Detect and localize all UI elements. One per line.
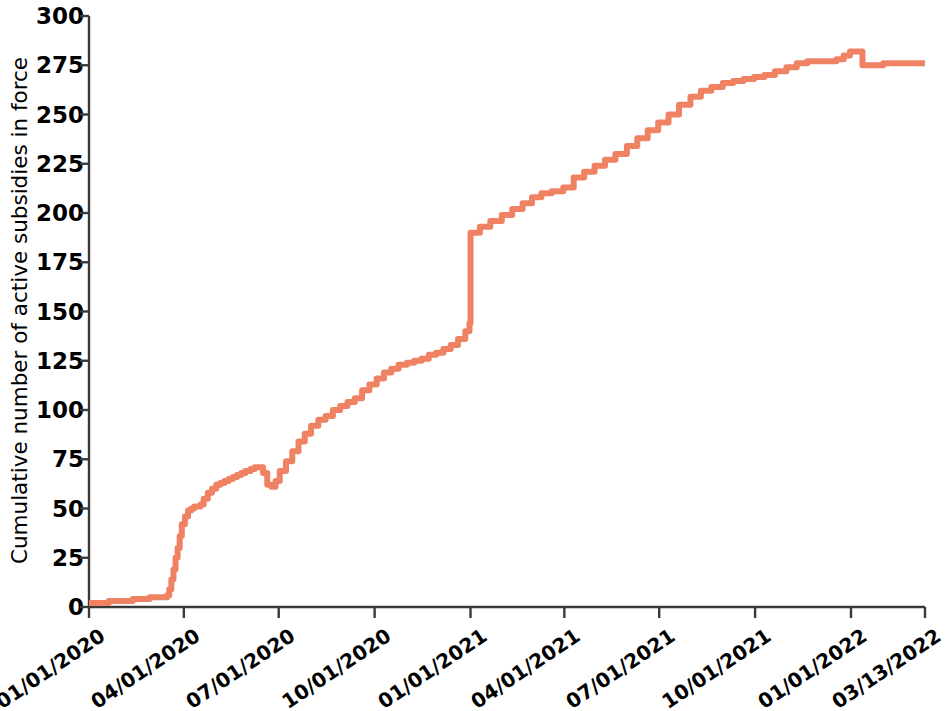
axes [80,16,925,618]
series-line [89,51,925,603]
data-series [89,51,925,603]
